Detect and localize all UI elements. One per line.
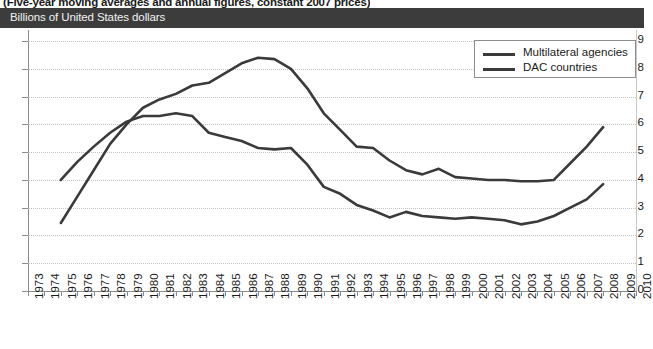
series-line [61, 58, 603, 223]
legend-label: Multilateral agencies [523, 46, 628, 58]
legend-swatch-icon [483, 53, 515, 56]
legend: Multilateral agencies DAC countries [474, 40, 636, 78]
series-line [61, 113, 603, 224]
legend-swatch-icon [483, 68, 515, 71]
legend-label: DAC countries [523, 61, 597, 73]
